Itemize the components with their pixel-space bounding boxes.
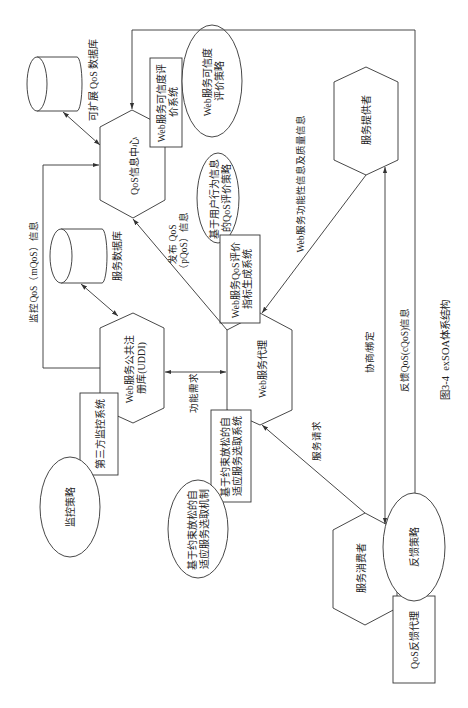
label-line: Web服务可信度评 bbox=[154, 64, 166, 142]
database-cylinder-cap bbox=[50, 229, 72, 283]
label-line: 评价策略 bbox=[212, 61, 224, 101]
label-line: 的QoS评价策略 bbox=[219, 164, 231, 232]
database-cylinder-cap bbox=[27, 57, 47, 111]
qos-feedback-agent-label: QoS反馈代理 bbox=[408, 611, 420, 669]
functional-quality-info-label: Web服务功能性信息及质量信息 bbox=[295, 115, 306, 252]
label-line: 指标生成系统 bbox=[240, 249, 252, 309]
label-line: 发布 QoS bbox=[167, 225, 178, 264]
service-db-connector bbox=[81, 284, 118, 316]
monitor-qos-label: 监控QoS（mQoS）信息 bbox=[28, 221, 39, 322]
service-request-label: 服务请求 bbox=[311, 421, 322, 461]
exsoa-architecture-diagram: 可扩展 QoS 数据库 QoS信息中心 Web服务可信度评 价系统 Web服务可… bbox=[0, 0, 468, 708]
label-line: 适应服务选取系统 bbox=[230, 416, 242, 496]
label-line: Web服务可信度 bbox=[200, 48, 212, 116]
feedback-cqos-label: 反馈QoS(cQoS)信息 bbox=[399, 308, 411, 392]
service-provider-label: 服务提供者 bbox=[360, 95, 372, 145]
service-consumer-label: 服务消费者 bbox=[355, 543, 367, 593]
label-line: 册库(UDDI) bbox=[134, 342, 147, 394]
label-line: 基于用户行为信息 bbox=[207, 159, 219, 239]
service-database-label: 服务数据库 bbox=[111, 231, 123, 281]
label-line: （pQoS）信息 bbox=[178, 212, 189, 274]
label-line: 基于约束放松的自 bbox=[218, 417, 230, 497]
monitor-strategy-label: 监控策略 bbox=[64, 487, 76, 527]
feedback-strategy-label: 反馈策略 bbox=[408, 527, 420, 567]
service-database bbox=[50, 229, 107, 283]
qos-info-center-label: QoS信息中心 bbox=[128, 137, 140, 195]
label-line: Web服务公共注 bbox=[122, 335, 134, 403]
functional-quality-info-connector bbox=[262, 175, 366, 313]
publish-qos-label: 发布 QoS （pQoS）信息 bbox=[167, 212, 189, 274]
figure-caption: 图3-4 exSOA体系结构 bbox=[439, 300, 451, 400]
third-party-monitor-label: 第三方监控系统 bbox=[94, 399, 106, 469]
label-line: 基于约束放松的自 bbox=[185, 490, 197, 570]
trust-eval-strategy-ellipse bbox=[182, 25, 242, 137]
uddi-registry-label: Web服务公共注 册库(UDDI) bbox=[122, 333, 147, 404]
label-line: 适应服务选取机制 bbox=[197, 489, 209, 569]
label-line: 价系统 bbox=[166, 87, 178, 117]
qos-index-system-box bbox=[220, 235, 260, 323]
negotiate-bind-label: 协商/绑定 bbox=[364, 331, 375, 374]
extensible-qos-database-label: 可扩展 QoS 数据库 bbox=[87, 39, 99, 122]
functional-requirement-label: 功能需求 bbox=[188, 373, 199, 413]
web-service-agent-label: Web服务代理 bbox=[256, 340, 268, 398]
label-line: Web服务QoS评价 bbox=[228, 242, 240, 318]
extensible-qos-database bbox=[27, 57, 82, 111]
